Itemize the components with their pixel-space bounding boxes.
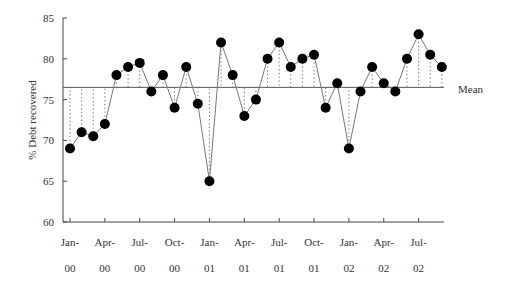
data-point-marker — [425, 50, 435, 60]
data-point-marker — [356, 86, 366, 96]
data-point-marker — [123, 62, 133, 72]
x-tick-label-month: Jan- — [61, 236, 80, 248]
data-point-marker — [193, 99, 203, 109]
data-point-marker — [309, 50, 319, 60]
x-tick-label-month: Jan- — [340, 236, 359, 248]
data-point-marker — [321, 103, 331, 113]
y-tick-label: 75 — [43, 94, 55, 106]
x-tick-label-year: 00 — [169, 262, 181, 274]
data-point-marker — [332, 78, 342, 88]
x-tick-label-year: 01 — [274, 262, 285, 274]
x-tick-label-month: Jul- — [410, 236, 427, 248]
x-tick-label-year: 00 — [134, 262, 146, 274]
x-tick-label-month: Jul- — [131, 236, 148, 248]
y-tick-label: 80 — [43, 53, 55, 65]
data-point-marker — [88, 131, 98, 141]
data-point-marker — [77, 127, 87, 137]
series-line — [70, 34, 442, 181]
x-tick-label-month: Jan- — [200, 236, 219, 248]
y-tick-label: 70 — [43, 134, 55, 146]
y-tick-label: 85 — [43, 12, 55, 24]
data-point-marker — [414, 29, 424, 39]
data-point-marker — [158, 70, 168, 80]
chart: 606570758085Jan-00Apr-00Jul-00Oct-00Jan-… — [0, 0, 508, 283]
x-tick-label-month: Oct- — [304, 236, 324, 248]
data-point-marker — [367, 62, 377, 72]
data-point-marker — [146, 86, 156, 96]
data-point-marker — [181, 62, 191, 72]
axes — [63, 18, 444, 222]
data-point-marker — [274, 37, 284, 47]
data-point-marker — [379, 78, 389, 88]
data-point-marker — [390, 86, 400, 96]
y-tick-label: 60 — [43, 216, 55, 228]
x-tick-label-month: Oct- — [165, 236, 185, 248]
mean-label: Mean — [458, 83, 484, 95]
x-tick-label-year: 02 — [378, 262, 389, 274]
data-point-marker — [228, 70, 238, 80]
data-point-marker — [297, 54, 307, 64]
data-point-marker — [437, 62, 447, 72]
data-point-marker — [251, 95, 261, 105]
x-tick-label-year: 00 — [65, 262, 77, 274]
x-tick-label-month: Apr- — [373, 236, 394, 248]
data-point-marker — [135, 58, 145, 68]
y-axis-title: % Debt recovered — [26, 80, 38, 160]
x-tick-label-year: 01 — [239, 262, 250, 274]
x-tick-label-year: 00 — [99, 262, 111, 274]
data-point-marker — [204, 176, 214, 186]
x-tick-label-year: 02 — [343, 262, 354, 274]
drop-lines — [70, 34, 442, 181]
data-point-marker — [286, 62, 296, 72]
x-tick-label-month: Apr- — [234, 236, 255, 248]
x-tick-label-year: 02 — [413, 262, 424, 274]
x-tick-label-year: 01 — [309, 262, 320, 274]
data-point-marker — [100, 119, 110, 129]
data-point-marker — [263, 54, 273, 64]
axis-labels: 606570758085Jan-00Apr-00Jul-00Oct-00Jan-… — [26, 12, 484, 274]
data-point-marker — [111, 70, 121, 80]
data-point-marker — [402, 54, 412, 64]
data-point-marker — [344, 144, 354, 154]
data-point-marker — [65, 144, 75, 154]
data-point-marker — [170, 103, 180, 113]
data-point-marker — [216, 37, 226, 47]
x-tick-label-month: Jul- — [271, 236, 288, 248]
y-tick-label: 65 — [43, 175, 55, 187]
data-point-marker — [239, 111, 249, 121]
x-tick-label-year: 01 — [204, 262, 215, 274]
data-series — [65, 29, 447, 186]
x-tick-label-month: Apr- — [95, 236, 116, 248]
